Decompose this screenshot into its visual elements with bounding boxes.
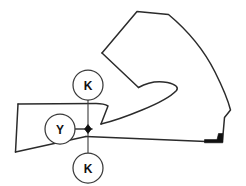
- callout-y-left-label: Y: [56, 123, 64, 137]
- tool-bottom-edge: [86, 137, 223, 142]
- tool-upper-shank-outline: [102, 12, 231, 141]
- cutting-edge-solid-wedge: [205, 134, 223, 143]
- tool-shank-left-edge: [102, 53, 139, 88]
- drawing-canvas: K Y K: [0, 0, 246, 186]
- tool-hook-curve: [101, 82, 177, 124]
- callout-k-bottom-label: K: [84, 162, 93, 176]
- datum-node-marker: [85, 125, 92, 134]
- technical-drawing-svg: K Y K: [0, 0, 246, 186]
- callout-k-bottom[interactable]: K: [73, 153, 103, 183]
- callout-k-top-label: K: [84, 79, 93, 93]
- tool-tang-end-face: [16, 104, 19, 152]
- callout-y-left[interactable]: Y: [45, 114, 75, 144]
- callout-k-top[interactable]: K: [73, 70, 103, 100]
